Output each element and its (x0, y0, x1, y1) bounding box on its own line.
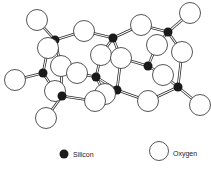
silicon-atom (164, 28, 173, 37)
silicon-atom (58, 92, 67, 101)
oxygen-atom (131, 15, 152, 36)
oxygen-atom (91, 45, 112, 66)
silicon-atom (109, 34, 118, 43)
oxygen-atom (180, 3, 201, 24)
silicon-oxygen-lattice-diagram: Silicon Oxygen (0, 0, 211, 171)
oxygen-atom (147, 35, 168, 56)
silicon-atom (174, 83, 183, 92)
silicon-atom (144, 62, 153, 71)
oxygen-atom (74, 21, 95, 42)
oxygen-legend-label: Oxygen (173, 150, 197, 158)
oxygen-atom (190, 95, 211, 116)
oxygen-atom (5, 70, 26, 91)
oxygen-atom (138, 91, 159, 112)
legend: Silicon Oxygen (60, 142, 198, 161)
silicon-atom (39, 69, 48, 78)
silicon-atom (92, 73, 101, 82)
oxygen-atom (67, 63, 88, 84)
oxygen-atom (172, 42, 193, 63)
silicon-legend-label: Silicon (73, 151, 94, 158)
oxygen-atom (85, 91, 106, 112)
oxygen-atom (153, 65, 174, 86)
oxygen-atom (27, 10, 48, 31)
oxygen-legend-icon (150, 142, 169, 161)
oxygen-atom (36, 108, 57, 129)
oxygen-atom (38, 38, 59, 59)
oxygen-atom (111, 48, 132, 69)
silicon-legend-icon (60, 150, 69, 159)
